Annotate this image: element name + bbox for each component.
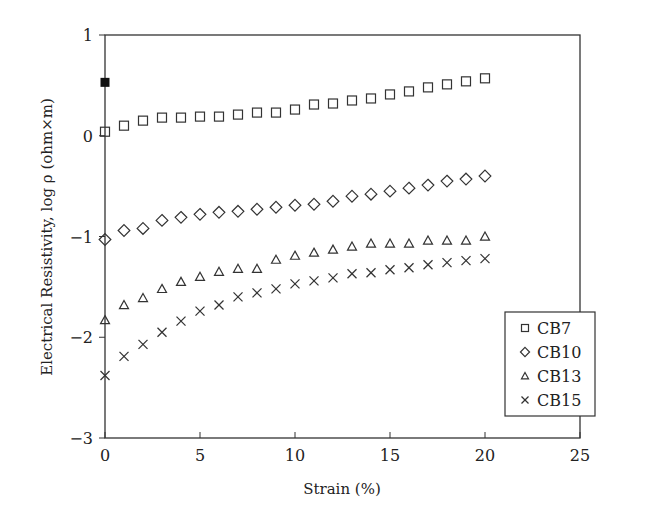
y-axis-title: Electrical Resistivity, log ρ (ohm×m)	[38, 98, 56, 376]
diamond-marker	[441, 175, 453, 187]
diamond-marker	[175, 212, 187, 224]
y-tick-label: 0	[83, 127, 93, 146]
triangle-marker	[367, 239, 376, 247]
diamond-marker	[270, 201, 282, 213]
triangle-marker	[158, 284, 167, 292]
x-tick-label: 5	[195, 446, 205, 465]
triangle-marker	[215, 267, 224, 275]
x-tick-label: 15	[380, 446, 400, 465]
square-marker	[329, 99, 338, 108]
square-marker	[462, 77, 471, 86]
y-tick-label: −1	[69, 228, 93, 247]
triangle-marker	[348, 242, 357, 250]
square-marker	[443, 80, 452, 89]
triangle-marker	[253, 264, 262, 272]
triangle-marker	[139, 293, 148, 301]
scatter-chart: 0510152025 10−1−2−3 Strain (%) Electrica…	[0, 0, 652, 526]
square-marker	[177, 113, 186, 122]
square-marker	[405, 87, 414, 96]
square-marker	[120, 121, 129, 130]
square-marker	[139, 116, 148, 125]
square-marker	[310, 100, 319, 109]
triangle-marker	[462, 236, 471, 244]
series-cb15	[101, 254, 490, 380]
y-tick-label: −2	[69, 328, 93, 347]
square-marker	[234, 110, 243, 119]
triangle-marker	[443, 236, 452, 244]
diamond-marker	[251, 203, 263, 215]
triangle-marker	[424, 236, 433, 244]
square-marker	[481, 74, 490, 83]
square-marker	[424, 83, 433, 92]
diamond-marker	[479, 170, 491, 182]
triangle-marker	[310, 248, 319, 256]
square-marker	[272, 108, 281, 117]
filled-square-marker	[101, 78, 110, 87]
diamond-marker	[460, 173, 472, 185]
diamond-marker	[289, 199, 301, 211]
triangle-marker	[481, 232, 490, 240]
triangle-marker	[272, 255, 281, 263]
diamond-marker	[346, 190, 358, 202]
legend-label: CB13	[537, 367, 581, 386]
diamond-marker	[213, 206, 225, 218]
diamond-marker	[365, 188, 377, 200]
x-tick-label: 10	[285, 446, 305, 465]
square-marker	[386, 90, 395, 99]
series-cb10	[99, 170, 491, 245]
square-marker	[158, 113, 167, 122]
triangle-marker	[120, 301, 129, 309]
x-tick-label: 20	[475, 446, 495, 465]
legend-label: CB15	[537, 391, 581, 410]
legend-label: CB10	[537, 343, 581, 362]
square-marker	[215, 112, 224, 121]
triangle-marker	[386, 239, 395, 247]
triangle-marker	[196, 272, 205, 280]
y-tick-label: 1	[83, 26, 93, 45]
square-marker	[253, 108, 262, 117]
legend-label: CB7	[537, 319, 571, 338]
triangle-marker	[234, 264, 243, 272]
diamond-marker	[194, 208, 206, 220]
x-axis: 0510152025	[100, 432, 590, 465]
diamond-marker	[403, 182, 415, 194]
square-marker	[348, 96, 357, 105]
diamond-marker	[327, 195, 339, 207]
x-tick-label: 25	[570, 446, 590, 465]
square-marker	[196, 112, 205, 121]
triangle-marker	[405, 239, 414, 247]
series-cb7	[101, 74, 490, 136]
diamond-marker	[422, 179, 434, 191]
diamond-marker	[232, 205, 244, 217]
y-axis: 10−1−2−3	[69, 26, 105, 448]
y-tick-label: −3	[69, 429, 93, 448]
triangle-marker	[329, 245, 338, 253]
diamond-marker	[137, 223, 149, 235]
data-points	[99, 74, 491, 380]
x-tick-label: 0	[100, 446, 110, 465]
x-axis-title: Strain (%)	[303, 480, 381, 498]
series-cb13	[101, 232, 490, 324]
square-marker	[367, 94, 376, 103]
diamond-marker	[118, 225, 130, 237]
square-marker	[291, 105, 300, 114]
triangle-marker	[177, 277, 186, 285]
diamond-marker	[308, 198, 320, 210]
legend: CB7CB10CB13CB15	[505, 312, 595, 416]
triangle-marker	[291, 251, 300, 259]
diamond-marker	[156, 215, 168, 227]
diamond-marker	[384, 185, 396, 197]
